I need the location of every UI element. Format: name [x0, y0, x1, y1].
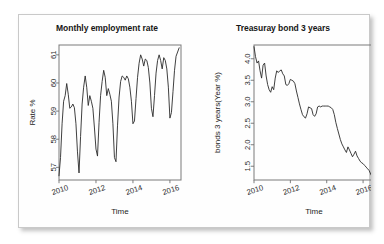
- y-axis-title: Rate %: [28, 99, 37, 125]
- y-tick-label: 2.5: [244, 118, 253, 129]
- x-tick-label: 2016: [161, 183, 180, 197]
- x-tick-label: 2014: [124, 183, 143, 197]
- plot-area-right: 1.52.02.53.03.54.02010201220142016Timebo…: [195, 15, 371, 229]
- x-axis-title: Time: [111, 207, 129, 216]
- x-tick-label: 2010: [246, 183, 265, 197]
- series-line: [59, 48, 179, 176]
- x-tick-label: 2014: [318, 183, 337, 197]
- y-tick-label: 58: [49, 135, 58, 143]
- y-axis-title: bonds 3 years(Year %): [213, 72, 222, 153]
- x-tick-label: 2012: [282, 183, 301, 197]
- x-tick-label: 2016: [355, 183, 371, 197]
- y-tick-label: 59: [49, 107, 58, 115]
- x-tick-label: 2010: [51, 183, 70, 197]
- x-axis-title: Time: [305, 207, 323, 216]
- panel-monthly-employment-rate: Monthly employment rate 5758596061201020…: [19, 15, 195, 229]
- y-tick-label: 60: [49, 79, 58, 87]
- y-tick-label: 57: [49, 163, 58, 171]
- y-tick-label: 2.0: [244, 139, 253, 150]
- plot-area-left: 57585960612010201220142016TimeRate %: [19, 15, 195, 229]
- y-tick-label: 4.0: [244, 53, 253, 64]
- panel-treasury-bond-3-years: Treasuray bond 3 years 1.52.02.53.03.54.…: [195, 15, 371, 229]
- y-tick-label: 3.0: [244, 96, 253, 107]
- y-tick-label: 61: [49, 51, 58, 59]
- series-line: [254, 47, 371, 177]
- figure-root: Monthly employment rate 5758596061201020…: [0, 0, 384, 244]
- figure-card: Monthly employment rate 5758596061201020…: [18, 14, 370, 228]
- y-tick-label: 3.5: [244, 75, 253, 86]
- y-tick-label: 1.5: [244, 161, 253, 172]
- x-tick-label: 2012: [87, 183, 106, 197]
